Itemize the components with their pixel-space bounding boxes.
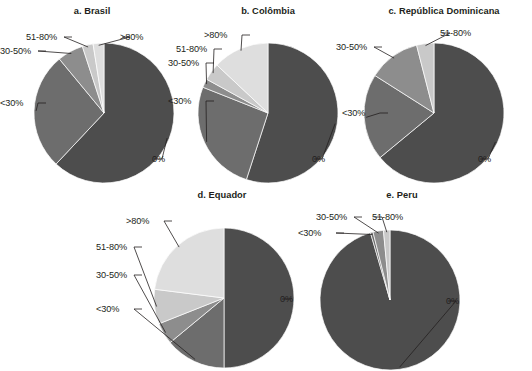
pie-panel-5: e. Peru0%<30%30-50%51-80% bbox=[312, 190, 492, 370]
pie-slice-label-51-80-: 51-80% bbox=[96, 242, 127, 252]
pie-slice-label-51-80-: 51-80% bbox=[26, 32, 57, 42]
pie-slice-label-51-80-: 51-80% bbox=[176, 44, 207, 54]
leader-line bbox=[374, 47, 394, 58]
pie-slice--80- bbox=[155, 228, 224, 298]
pie-slice-label-0-: 0% bbox=[312, 154, 325, 164]
pie-slice-label--30-: <30% bbox=[298, 228, 321, 238]
pie-panel-title: c. República Dominicana bbox=[356, 6, 532, 16]
pie-slice-label--80-: >80% bbox=[204, 30, 227, 40]
leader-line bbox=[134, 247, 157, 307]
pie-panel-title: a. Brasil bbox=[4, 6, 180, 16]
pie-panel-3: c. República Dominicana0%<30%30-50%51-80… bbox=[356, 6, 532, 186]
pie-slice-label-30-50-: 30-50% bbox=[336, 42, 367, 52]
pie-slice-label-30-50-: 30-50% bbox=[96, 270, 127, 280]
pie-panel-title: d. Equador bbox=[132, 190, 312, 200]
pie-panel-title: b. Colômbia bbox=[180, 6, 356, 16]
pie-panel-2: b. Colômbia0%<30%30-50%51-80%>80% bbox=[180, 6, 356, 186]
leader-line bbox=[164, 221, 179, 247]
pie-panel-title: e. Peru bbox=[312, 190, 492, 200]
pie-slice-label-0-: 0% bbox=[280, 294, 293, 304]
pie-slice-label-51-80-: 51-80% bbox=[440, 28, 471, 38]
pie-slice-label--80-: >80% bbox=[126, 216, 149, 226]
leader-line bbox=[64, 37, 88, 47]
pie-slice-label-0-: 0% bbox=[446, 296, 459, 306]
pie-slice-label-0-: 0% bbox=[478, 154, 491, 164]
pie-slice-label-0-: 0% bbox=[152, 154, 165, 164]
pie-slice-label--30-: <30% bbox=[168, 96, 191, 106]
pie-slice-label--30-: <30% bbox=[96, 304, 119, 314]
pie-slice-label-30-50-: 30-50% bbox=[316, 212, 347, 222]
pie-slice-label--80-: >80% bbox=[120, 32, 143, 42]
pie-slice-label-30-50-: 30-50% bbox=[168, 58, 199, 68]
pie-chart-4 bbox=[132, 190, 312, 370]
pie-slice-label-51-80-: 51-80% bbox=[372, 212, 403, 222]
pie-panel-4: d. Equador0%<30%30-50%51-80%>80% bbox=[132, 190, 312, 370]
pie-slice-label--30-: <30% bbox=[342, 108, 365, 118]
pie-panel-1: a. Brasil0%<30%30-50%51-80%>80% bbox=[4, 6, 180, 186]
pie-slice-label-30-50-: 30-50% bbox=[0, 46, 31, 56]
pie-slice-label--30-: <30% bbox=[0, 98, 23, 108]
leader-line bbox=[38, 51, 71, 54]
